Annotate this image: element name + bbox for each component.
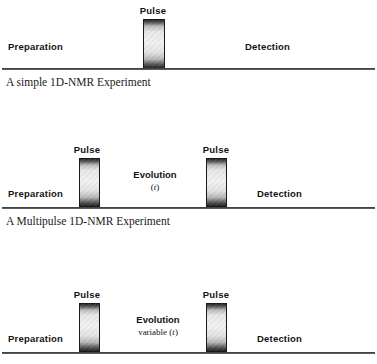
time-axis-line: [2, 207, 375, 209]
pulse-box: [143, 19, 165, 69]
detection-label: Detection: [257, 333, 302, 344]
detection-label: Detection: [257, 188, 302, 199]
pulse-label: Pulse: [193, 289, 239, 300]
preparation-label: Preparation: [8, 333, 63, 344]
evolution-sublabel: (t): [118, 181, 192, 193]
pulse-label: Pulse: [130, 5, 176, 16]
pulse-label: Pulse: [64, 289, 110, 300]
pulse-label: Pulse: [64, 144, 110, 155]
evolution-sub-suffix: ): [156, 182, 159, 192]
pulse-box: [79, 158, 100, 207]
diagram-caption: A Multipulse 1D-NMR Experiment: [6, 215, 170, 227]
evolution-sub-prefix: variable (: [138, 327, 172, 337]
diagram-variable-evolution-1d-nmr: Pulse Pulse Preparation Evolution variab…: [0, 271, 377, 364]
pulse-label: Pulse: [193, 144, 239, 155]
preparation-label: Preparation: [8, 41, 63, 52]
time-axis-line: [2, 68, 375, 70]
evolution-sublabel: variable (t): [118, 326, 198, 338]
evolution-title: Evolution: [118, 169, 192, 181]
evolution-sub-suffix: ): [175, 327, 178, 337]
pulse-box: [79, 303, 100, 352]
time-axis-line: [2, 352, 375, 354]
diagram-caption: A simple 1D-NMR Experiment: [6, 76, 151, 88]
pulse-box: [206, 158, 227, 207]
detection-label: Detection: [245, 41, 290, 52]
evolution-label-group: Evolution (t): [118, 169, 192, 193]
evolution-label-group: Evolution variable (t): [118, 314, 198, 338]
preparation-label: Preparation: [8, 188, 63, 199]
evolution-title: Evolution: [118, 314, 198, 326]
diagram-simple-1d-nmr: Pulse Preparation Detection A simple 1D-…: [0, 0, 377, 100]
diagram-multipulse-1d-nmr: Pulse Pulse Preparation Evolution (t) De…: [0, 126, 377, 236]
pulse-box: [206, 303, 227, 352]
